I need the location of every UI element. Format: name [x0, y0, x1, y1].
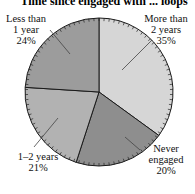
slice-value-label: 35% — [156, 35, 176, 46]
slice-label: Neverengaged20% — [149, 143, 185, 176]
slice-label: Less than1 year24% — [6, 13, 47, 46]
slice-name-label: More than — [144, 13, 188, 24]
pie-slices — [25, 18, 173, 166]
chart-title: Time since engaged with ... loops — [20, 0, 187, 8]
slice-value-label: 20% — [156, 165, 176, 176]
slice-value-label: 24% — [16, 35, 36, 46]
slice-value-label: 21% — [28, 162, 48, 173]
slice-label: 1–2 years21% — [18, 151, 59, 173]
slice-name-label: Never — [153, 143, 179, 154]
slice-name-label: 2 years — [151, 24, 181, 35]
slice-name-label: 1–2 years — [18, 151, 59, 162]
pie-chart: Time since engaged with ... loops More t… — [0, 0, 195, 194]
slice-name-label: engaged — [149, 154, 185, 165]
slice-name-label: 1 year — [13, 24, 39, 35]
slice-name-label: Less than — [6, 13, 47, 24]
